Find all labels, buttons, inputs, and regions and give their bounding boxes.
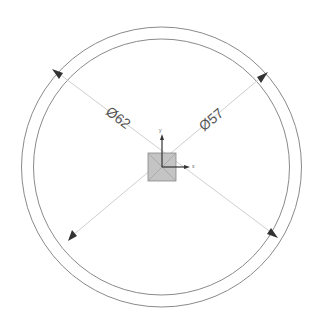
drawing-canvas (0, 0, 323, 333)
y-axis-label: y (159, 127, 162, 133)
arrow-icon (257, 72, 268, 83)
arrow-icon (68, 230, 77, 241)
x-axis-label: x (192, 163, 195, 169)
